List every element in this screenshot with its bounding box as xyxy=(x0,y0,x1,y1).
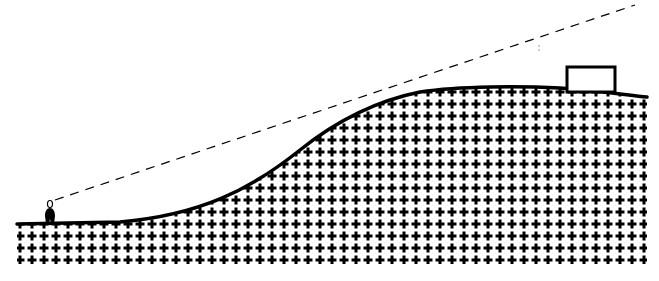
building-box xyxy=(567,67,615,92)
line-of-sight-diagram xyxy=(0,0,659,281)
hill xyxy=(17,80,649,266)
observer-person-icon xyxy=(45,201,55,225)
